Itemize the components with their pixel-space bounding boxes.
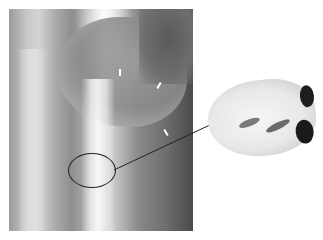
specimen-cavity — [265, 117, 291, 135]
specimen-cavity — [238, 116, 261, 130]
